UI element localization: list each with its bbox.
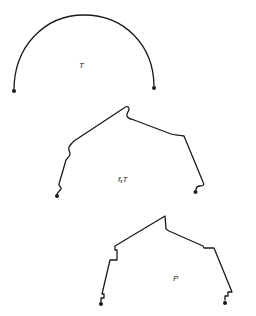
label-p-text: P [173, 274, 178, 283]
endpoint-f-eps-t-start [55, 194, 59, 198]
path-p [101, 216, 232, 303]
endpoint-t-end [152, 86, 156, 90]
endpoint-p-start [99, 302, 103, 306]
label-f-eps-t-suffix: T [122, 175, 127, 184]
label-f-eps-t: fεT [118, 176, 127, 184]
path-f-eps-t [57, 107, 204, 195]
curve-t [12, 15, 156, 93]
endpoint-p-end [223, 301, 227, 305]
curve-p [99, 216, 232, 306]
endpoint-t-start [12, 89, 16, 93]
curve-f-eps-t [55, 107, 204, 198]
arc-t [14, 15, 154, 90]
figure-canvas [0, 0, 256, 316]
label-t: T [79, 62, 84, 70]
label-p: P [173, 275, 178, 283]
label-t-text: T [79, 61, 84, 70]
endpoint-f-eps-t-end [194, 190, 198, 194]
